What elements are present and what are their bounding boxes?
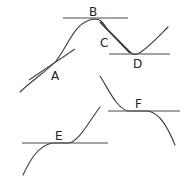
label-c: C (100, 36, 108, 50)
tangent-diagram: A B C D F E (0, 0, 187, 184)
label-e: E (55, 129, 63, 143)
label-b: B (89, 5, 97, 19)
label-f: F (135, 97, 142, 111)
label-d: D (133, 57, 142, 71)
main-curve (20, 19, 168, 92)
label-a: A (51, 69, 60, 83)
